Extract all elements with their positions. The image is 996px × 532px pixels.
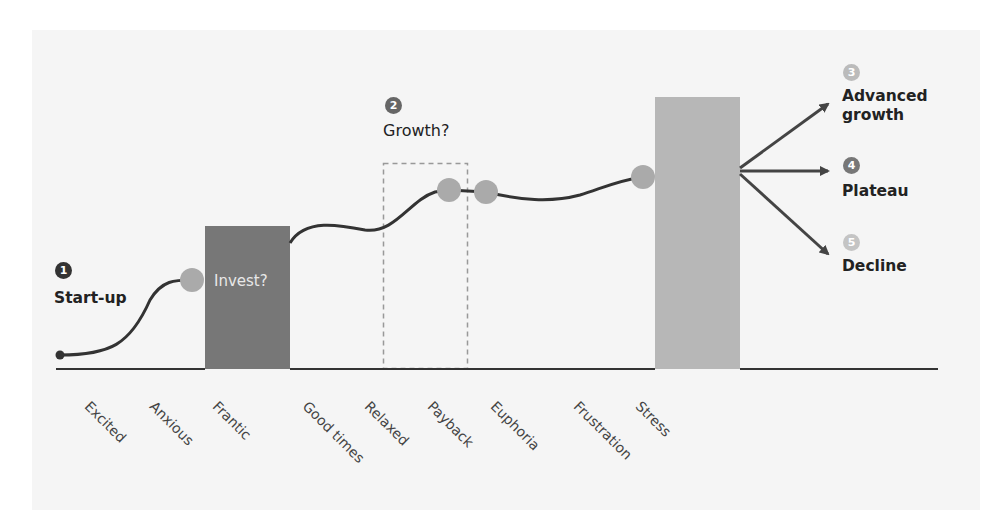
milestone-dot-euphoria	[474, 180, 498, 204]
stage-2-badge: 2	[385, 97, 402, 114]
stage-5-badge: 5	[843, 234, 860, 251]
stage-3-badge: 3	[843, 64, 860, 81]
invest-box-label: Invest?	[214, 272, 268, 290]
stage-3-label-line2: growth	[842, 107, 904, 124]
arrow-decline	[740, 174, 828, 254]
start-dot	[56, 351, 65, 360]
arrow-advanced-growth	[740, 104, 828, 168]
invest-box	[205, 226, 290, 369]
stage-5-label: Decline	[842, 258, 907, 275]
stage-2-label: Growth?	[383, 122, 449, 139]
stress-box	[655, 97, 740, 369]
milestone-dot-payback	[437, 178, 461, 202]
milestone-dot-stress	[631, 165, 655, 189]
progress-curve	[290, 190, 449, 243]
stage-1-badge: 1	[55, 262, 72, 279]
progress-curve	[486, 177, 643, 200]
stage-4-badge: 4	[843, 157, 860, 174]
stage-4-label: Plateau	[842, 183, 909, 200]
stage-1-label: Start-up	[54, 290, 127, 307]
milestone-dot-anxious	[180, 268, 204, 292]
stage-3-label-line1: Advanced	[842, 88, 928, 105]
